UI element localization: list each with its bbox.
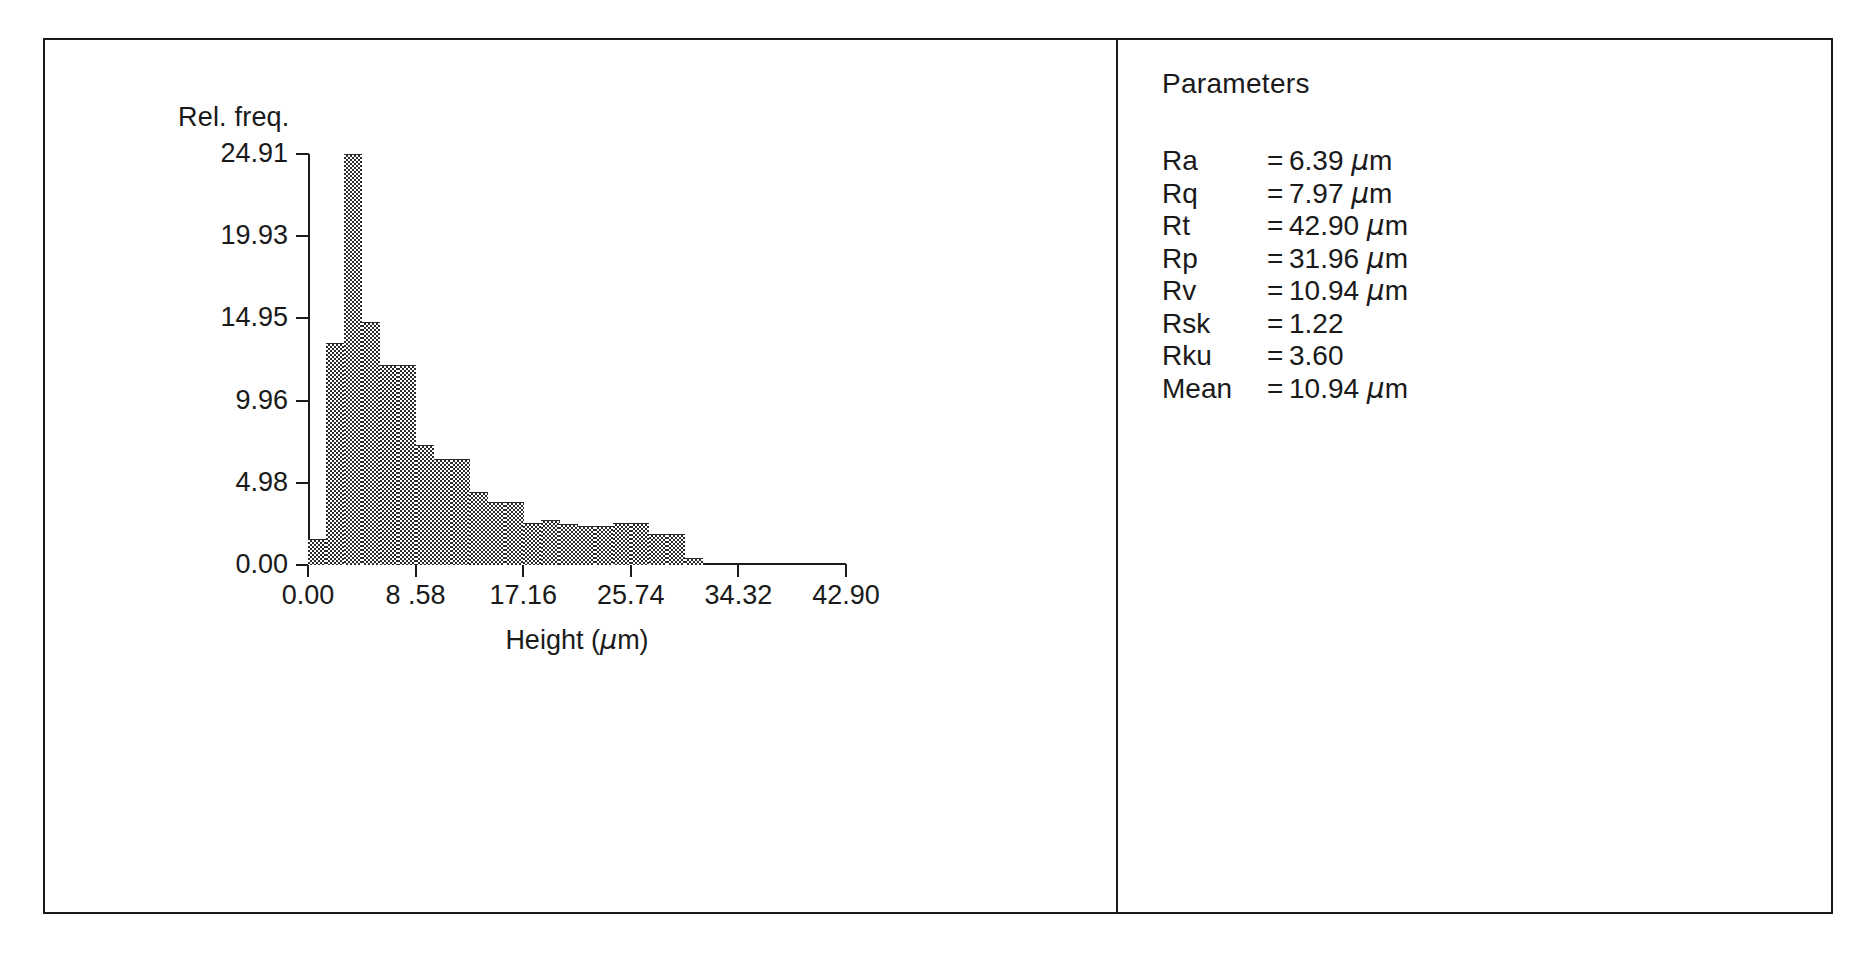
parameter-equals: =	[1267, 178, 1289, 211]
parameter-name: Rku	[1162, 340, 1267, 373]
parameter-value: 3.60	[1289, 340, 1344, 373]
parameter-name: Rt	[1162, 210, 1267, 243]
parameter-name: Rp	[1162, 243, 1267, 276]
x-axis-tick-label: 0.00	[282, 580, 335, 611]
plot-area: Rel. freq. 0.004.989.9614.9519.9324.91 0…	[45, 40, 1116, 912]
histogram-bar	[505, 502, 524, 565]
histogram-bar	[595, 526, 614, 565]
figure-frame: Rel. freq. 0.004.989.9614.9519.9324.91 0…	[43, 38, 1833, 914]
histogram-bar	[308, 539, 327, 565]
histogram-bar	[523, 523, 542, 565]
parameter-name: Rsk	[1162, 308, 1267, 341]
histogram-bar	[559, 524, 578, 565]
histogram-bar	[416, 445, 435, 565]
parameter-equals: =	[1267, 308, 1289, 341]
x-axis-tick	[630, 564, 632, 577]
histogram-bar	[487, 502, 506, 565]
parameter-row: Rv=10.94 μm	[1162, 275, 1408, 308]
parameter-value: 10.94 μm	[1289, 275, 1408, 308]
histogram-bar	[667, 534, 686, 565]
parameter-value: 42.90 μm	[1289, 210, 1408, 243]
parameter-equals: =	[1267, 275, 1289, 308]
histogram-bar	[362, 322, 381, 565]
histogram-bar	[685, 558, 704, 565]
parameter-value: 10.94 μm	[1289, 373, 1408, 406]
x-axis-tick-label: 25.74	[597, 580, 665, 611]
histogram-bar	[434, 459, 453, 565]
y-axis-tick-label: 14.95	[45, 302, 288, 333]
parameter-value: 6.39 μm	[1289, 145, 1392, 178]
parameter-row: Mean=10.94 μm	[1162, 373, 1408, 406]
histogram-bar	[398, 365, 417, 565]
y-axis-tick-label: 0.00	[45, 549, 288, 580]
parameter-row: Ra=6.39 μm	[1162, 145, 1408, 178]
parameters-list: Ra=6.39 μmRq=7.97 μmRt=42.90 μmRp=31.96 …	[1162, 145, 1408, 405]
x-axis-tick	[307, 564, 309, 577]
parameter-value: 7.97 μm	[1289, 178, 1392, 211]
parameter-equals: =	[1267, 340, 1289, 373]
histogram-bars	[308, 154, 868, 565]
histogram-bar	[469, 492, 488, 565]
histogram-bar	[613, 523, 632, 565]
parameter-equals: =	[1267, 373, 1289, 406]
parameters-title: Parameters	[1162, 68, 1310, 100]
histogram-bar	[451, 459, 470, 565]
histogram-bar	[380, 365, 399, 565]
x-axis-title-text: Height	[505, 625, 583, 655]
x-axis-tick	[415, 564, 417, 577]
histogram-bar	[649, 534, 668, 565]
parameter-row: Rku=3.60	[1162, 340, 1408, 373]
parameter-equals: =	[1267, 145, 1289, 178]
histogram-bar	[541, 520, 560, 565]
parameter-equals: =	[1267, 243, 1289, 276]
parameter-row: Rp=31.96 μm	[1162, 243, 1408, 276]
parameter-row: Rt=42.90 μm	[1162, 210, 1408, 243]
y-axis-tick-label: 24.91	[45, 138, 288, 169]
x-axis-tick-label: 8 .58	[386, 580, 446, 611]
parameter-name: Mean	[1162, 373, 1267, 406]
x-axis-tick-label: 34.32	[705, 580, 773, 611]
x-axis-tick-label: 17.16	[489, 580, 557, 611]
histogram-bar	[577, 526, 596, 565]
parameters-panel: Parameters Ra=6.39 μmRq=7.97 μmRt=42.90 …	[1118, 40, 1831, 912]
parameter-row: Rq=7.97 μm	[1162, 178, 1408, 211]
y-axis-tick-label: 9.96	[45, 385, 288, 416]
parameter-name: Ra	[1162, 145, 1267, 178]
parameter-row: Rsk=1.22	[1162, 308, 1408, 341]
histogram-bar	[344, 154, 363, 565]
parameter-name: Rv	[1162, 275, 1267, 308]
y-axis-tick-label: 19.93	[45, 220, 288, 251]
x-axis-tick	[737, 564, 739, 577]
x-axis-tick	[522, 564, 524, 577]
histogram-bar	[326, 343, 345, 565]
parameter-value: 1.22	[1289, 308, 1344, 341]
parameter-name: Rq	[1162, 178, 1267, 211]
x-axis-title: Height (μm)	[308, 624, 846, 656]
x-axis-title-unit: (μm)	[591, 625, 649, 655]
y-axis-tick-label: 4.98	[45, 467, 288, 498]
x-axis-tick	[845, 564, 847, 577]
histogram-bar	[631, 523, 650, 565]
parameter-equals: =	[1267, 210, 1289, 243]
x-axis-tick-label: 42.90	[812, 580, 880, 611]
parameter-value: 31.96 μm	[1289, 243, 1408, 276]
y-axis-title: Rel. freq.	[178, 102, 290, 133]
histogram-panel: Rel. freq. 0.004.989.9614.9519.9324.91 0…	[45, 40, 1116, 912]
